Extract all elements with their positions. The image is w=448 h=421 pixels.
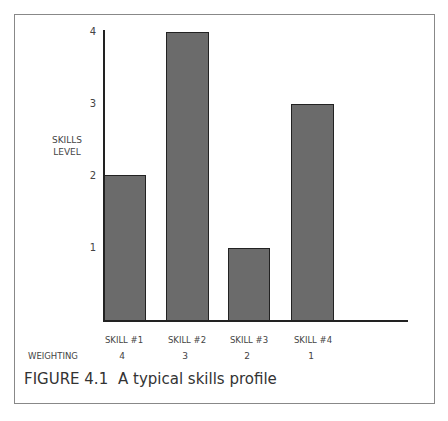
y-tick-1: 1 [76, 242, 96, 253]
bar-skill-4 [291, 104, 334, 321]
x-label-skill-4: SKILL #4 [283, 335, 343, 345]
bar-skill-2 [166, 32, 209, 321]
x-label-skill-2: SKILL #2 [157, 335, 217, 345]
weighting-skill-1: 4 [92, 351, 152, 361]
y-tick-4: 4 [76, 26, 96, 37]
y-tick-2: 2 [76, 170, 96, 181]
y-axis-label-line2: LEVEL [42, 146, 92, 158]
x-label-skill-1: SKILL #1 [94, 335, 154, 345]
weighting-skill-2: 3 [155, 351, 215, 361]
weighting-label: WEIGHTING [28, 351, 78, 361]
x-label-skill-3: SKILL #3 [219, 335, 279, 345]
figure-caption: A typical skills profile [118, 370, 277, 388]
weighting-skill-3: 2 [217, 351, 277, 361]
bar-skill-3 [228, 248, 270, 321]
y-axis-label: SKILLS LEVEL [42, 134, 92, 158]
y-axis-label-line1: SKILLS [42, 134, 92, 146]
bar-skill-1 [104, 175, 146, 321]
figure-frame [14, 14, 435, 404]
weighting-skill-4: 1 [281, 351, 341, 361]
y-tick-3: 3 [76, 98, 96, 109]
figure-number: FIGURE 4.1 [24, 370, 108, 388]
